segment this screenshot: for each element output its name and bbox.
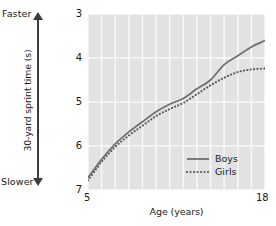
legend-swatch-boys bbox=[186, 154, 210, 164]
direction-axis-line bbox=[37, 18, 39, 184]
x-axis-tick-labels: 5 18 bbox=[0, 192, 276, 206]
arrow-down-icon bbox=[33, 178, 43, 186]
y-tick-label-6: 6 bbox=[66, 141, 82, 151]
legend-item-boys: Boys bbox=[186, 152, 260, 165]
faster-label: Faster bbox=[2, 8, 31, 19]
sprint-time-line-chart: Faster Slower 30-yard sprint time (s) 3 … bbox=[0, 0, 276, 226]
chart-legend: Boys Girls bbox=[186, 152, 260, 178]
legend-item-girls: Girls bbox=[186, 165, 260, 178]
y-tick-label-4: 4 bbox=[66, 53, 82, 63]
y-axis-title: 30-yard sprint time (s) bbox=[22, 36, 33, 166]
x-tick-label-18: 18 bbox=[256, 192, 269, 203]
x-axis-title: Age (years) bbox=[88, 206, 265, 217]
faster-slower-axis bbox=[33, 10, 43, 192]
x-tick-label-5: 5 bbox=[84, 192, 90, 203]
legend-label-boys: Boys bbox=[215, 154, 238, 164]
slower-label: Slower bbox=[1, 176, 34, 187]
legend-label-girls: Girls bbox=[215, 167, 237, 177]
y-tick-label-5: 5 bbox=[66, 97, 82, 107]
y-tick-label-3: 3 bbox=[66, 9, 82, 19]
legend-swatch-girls bbox=[186, 167, 210, 177]
